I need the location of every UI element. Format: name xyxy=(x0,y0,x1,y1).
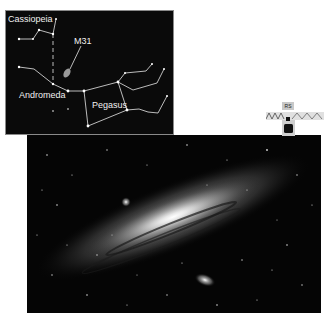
label-pegasus: Pegasus xyxy=(92,100,127,110)
label-m31: M31 xyxy=(74,36,92,46)
finder-chart: Cassiopeia M31 Andromeda Pegasus xyxy=(5,10,174,135)
scale-indicator: RS xyxy=(266,102,324,138)
binoculars-icon xyxy=(266,102,324,138)
galaxy-image xyxy=(27,135,321,313)
galaxy-photo xyxy=(27,135,321,313)
label-andromeda: Andromeda xyxy=(19,90,66,100)
label-cassiopeia: Cassiopeia xyxy=(8,14,53,24)
constellation-lines xyxy=(6,11,174,135)
